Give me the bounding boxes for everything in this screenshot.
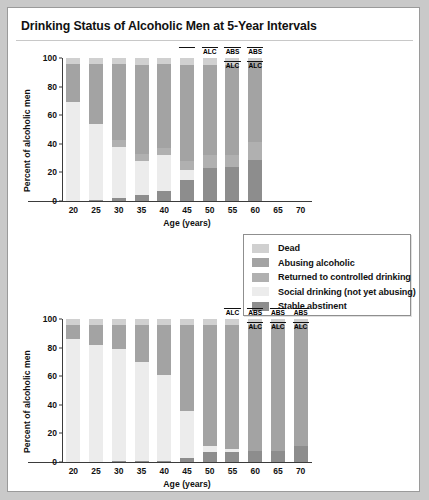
y-axis-tick-mark — [59, 172, 62, 173]
bar-segment — [112, 64, 126, 140]
x-axis-tick: 45 — [182, 205, 191, 215]
x-axis-tick: 30 — [114, 205, 123, 215]
annotation-label-abs: ABS — [248, 310, 262, 317]
annotation-label-alc: ALC — [249, 324, 262, 331]
bar-segment — [225, 449, 239, 452]
y-axis-tick: 60 — [48, 110, 57, 120]
bar-segment — [225, 167, 239, 201]
bar-segment — [89, 325, 103, 345]
x-axis-tick: 30 — [114, 466, 123, 476]
bar-segment — [248, 142, 262, 159]
legend-label: Abusing alcoholic — [278, 258, 355, 268]
annotation-label-alc: ALC — [249, 63, 262, 70]
annotation-label-alc: ALC — [226, 310, 239, 317]
bar-segment — [248, 62, 262, 142]
bar-segment — [203, 446, 217, 452]
bar-segment — [294, 325, 308, 447]
bar-segment — [271, 451, 285, 462]
bar-segment — [157, 319, 171, 325]
legend-swatch-social-drinking — [252, 287, 269, 296]
annotation-label-alc: ALC — [271, 324, 284, 331]
bar-segment — [112, 319, 126, 325]
bar-40[interactable] — [157, 58, 171, 201]
y-axis-tick: 100 — [43, 53, 57, 63]
x-axis-tick: 55 — [228, 205, 237, 215]
bar-segment — [89, 345, 103, 462]
bar-35[interactable] — [135, 319, 149, 462]
bar-60[interactable] — [248, 319, 262, 462]
annotation-label-alc: ALC — [203, 49, 216, 56]
y-axis-tick-mark — [59, 433, 62, 434]
y-axis-label-bottom: Percent of alcoholic men — [22, 350, 32, 453]
bar-segment — [157, 155, 171, 191]
y-axis-tick: 60 — [48, 371, 57, 381]
bar-segment — [89, 200, 103, 201]
legend-label: Returned to controlled drinking — [278, 272, 411, 282]
bar-segment — [180, 325, 194, 411]
y-axis-label-top: Percent of alcoholic men — [22, 89, 32, 192]
y-axis-tick-mark — [59, 201, 62, 202]
bar-segment — [135, 58, 149, 65]
annotation-label-abs: ABS — [226, 49, 240, 56]
y-axis-tick: 40 — [48, 400, 57, 410]
bar-segment — [66, 325, 80, 339]
bar-45[interactable] — [180, 319, 194, 462]
bar-segment — [225, 65, 239, 155]
bar-55[interactable] — [225, 58, 239, 201]
bar-segment — [157, 148, 171, 155]
x-axis-tick: 65 — [273, 205, 282, 215]
y-axis-tick-mark — [59, 376, 62, 377]
bar-40[interactable] — [157, 319, 171, 462]
bar-segment — [203, 168, 217, 201]
bar-60[interactable] — [248, 58, 262, 201]
bar-30[interactable] — [112, 319, 126, 462]
y-axis-tick: 100 — [43, 314, 57, 324]
bar-65[interactable] — [271, 319, 285, 462]
title-divider — [16, 40, 413, 41]
bar-segment — [225, 319, 239, 325]
bar-segment — [135, 461, 149, 462]
bar-45[interactable] — [180, 58, 194, 201]
legend-item: Social drinking (not yet abusing) — [252, 285, 400, 300]
bar-25[interactable] — [89, 58, 103, 201]
y-axis-tick-mark — [59, 143, 62, 144]
bar-20[interactable] — [66, 58, 80, 201]
bar-segment — [180, 170, 194, 180]
bar-segment — [203, 65, 217, 155]
bar-segment — [225, 452, 239, 462]
bar-segment — [157, 64, 171, 148]
annotation-label-alc: ALC — [226, 63, 239, 70]
bar-segment — [66, 102, 80, 201]
annotation-label-abs: ABS — [248, 49, 262, 56]
bar-50[interactable] — [203, 319, 217, 462]
bar-30[interactable] — [112, 58, 126, 201]
bar-70[interactable] — [294, 319, 308, 462]
bar-50[interactable] — [203, 58, 217, 201]
x-axis-line — [28, 201, 312, 202]
bar-35[interactable] — [135, 58, 149, 201]
bar-55[interactable] — [225, 319, 239, 462]
bar-segment — [66, 339, 80, 462]
chart-top: Percent of alcoholic men Age (years) 020… — [62, 58, 312, 201]
y-axis-tick-mark — [59, 115, 62, 116]
legend-label: Social drinking (not yet abusing) — [278, 287, 416, 297]
bar-segment — [294, 446, 308, 462]
y-axis-tick: 0 — [52, 457, 57, 467]
bar-segment — [180, 58, 194, 65]
y-axis-line — [62, 58, 63, 201]
bar-segment — [89, 319, 103, 325]
bar-segment — [135, 319, 149, 325]
bar-segment — [180, 180, 194, 201]
x-axis-tick: 60 — [250, 205, 259, 215]
annotation-label-abs: ABS — [271, 310, 285, 317]
bar-segment — [135, 325, 149, 362]
legend-label: Dead — [278, 243, 300, 253]
bar-segment — [112, 349, 126, 461]
page-title: Drinking Status of Alcoholic Men at 5-Ye… — [21, 19, 317, 33]
x-axis-tick: 65 — [273, 466, 282, 476]
bar-20[interactable] — [66, 319, 80, 462]
x-axis-tick: 25 — [91, 466, 100, 476]
y-axis-tick-mark — [59, 86, 62, 87]
bar-segment — [66, 58, 80, 64]
bar-25[interactable] — [89, 319, 103, 462]
